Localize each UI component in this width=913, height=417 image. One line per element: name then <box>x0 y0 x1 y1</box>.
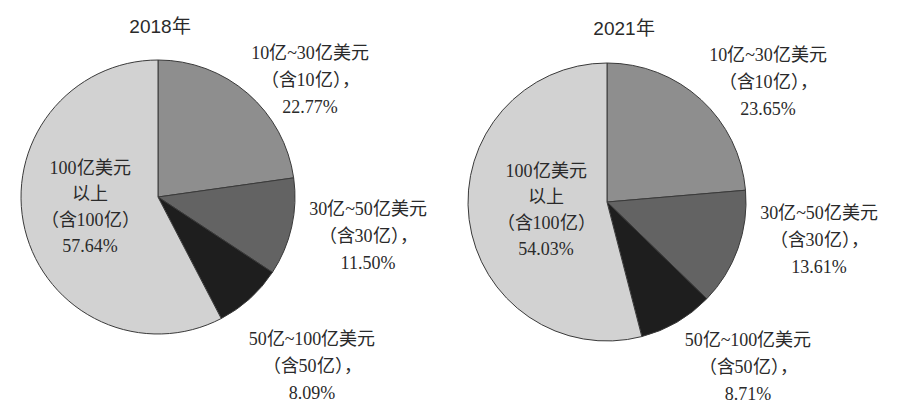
slice-label-line: 100亿美元 <box>50 158 131 178</box>
slice-label-2018-2: 50亿~100亿美元（含50亿），8.09% <box>249 329 376 403</box>
slice-label-line: 13.61% <box>791 257 847 277</box>
slice-label-line: （含100亿） <box>41 210 140 230</box>
slice-label-2021-2: 50亿~100亿美元（含50亿），8.71% <box>685 330 812 404</box>
slice-label-line: （含30亿）， <box>770 230 869 250</box>
slice-label-line: 30亿~50亿美元 <box>760 203 878 223</box>
pie-charts-figure: 2018年 10亿~30亿美元（含10亿），22.77%30亿~50亿美元（含3… <box>0 0 913 417</box>
slice-label-2021-0: 10亿~30亿美元（含10亿），23.65% <box>709 45 827 119</box>
slice-label-line: 10亿~30亿美元 <box>709 45 827 65</box>
slice-label-line: 10亿~30亿美元 <box>251 43 369 63</box>
slice-label-line: 30亿~50亿美元 <box>309 199 427 219</box>
pie-chart-2018: 2018年 10亿~30亿美元（含10亿），22.77%30亿~50亿美元（含3… <box>21 16 427 403</box>
slice-label-2021-1: 30亿~50亿美元（含30亿），13.61% <box>760 203 878 277</box>
slice-label-line: 100亿美元 <box>506 161 587 181</box>
slice-label-line: （含50亿）， <box>699 357 798 377</box>
slice-label-line: 57.64% <box>62 236 118 256</box>
pie-slices-2018 <box>21 60 295 334</box>
slice-label-line: 8.09% <box>289 383 336 403</box>
slice-label-line: 50亿~100亿美元 <box>685 330 812 350</box>
slice-label-line: 50亿~100亿美元 <box>249 329 376 349</box>
chart-title-2018: 2018年 <box>129 16 190 37</box>
slice-label-line: 22.77% <box>282 97 338 117</box>
slice-label-line: 54.03% <box>518 239 574 259</box>
slice-label-line: （含30亿）， <box>319 226 418 246</box>
slice-label-2018-0: 10亿~30亿美元（含10亿），22.77% <box>251 43 369 117</box>
slice-label-line: （含10亿）， <box>719 72 818 92</box>
slice-label-line: （含50亿）， <box>263 356 362 376</box>
slice-label-line: 以上 <box>72 184 108 204</box>
slice-label-line: （含10亿）， <box>261 70 360 90</box>
pie-chart-2021: 2021年 10亿~30亿美元（含10亿），23.65%30亿~50亿美元（含3… <box>468 18 878 404</box>
chart-title-2021: 2021年 <box>593 18 654 39</box>
slice-label-line: 8.71% <box>725 384 772 404</box>
slice-label-line: 23.65% <box>740 99 796 119</box>
slice-label-line: （含100亿） <box>497 213 596 233</box>
slice-label-2018-1: 30亿~50亿美元（含30亿），11.50% <box>309 199 427 273</box>
slice-label-line: 以上 <box>528 187 564 207</box>
pie-slices-2021 <box>468 63 746 341</box>
slice-label-line: 11.50% <box>341 253 396 273</box>
